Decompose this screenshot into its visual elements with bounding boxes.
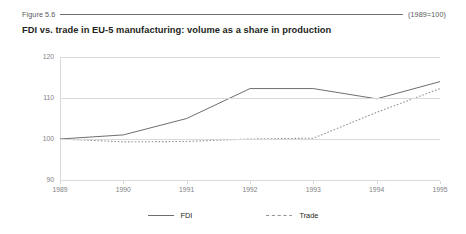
legend-item-trade: Trade: [266, 211, 318, 220]
x-axis-label: 1992: [230, 186, 270, 193]
x-tick: [440, 181, 441, 184]
x-tick: [250, 181, 251, 184]
legend-swatch-dashed-icon: [266, 212, 292, 219]
legend-label-fdi: FDI: [181, 211, 193, 220]
gridline-y: [60, 57, 440, 58]
y-axis-label: 120: [28, 54, 54, 61]
legend-label-trade: Trade: [299, 211, 318, 220]
y-tick: 120: [24, 57, 54, 58]
x-tick: [377, 181, 378, 184]
y-tick: 90: [24, 180, 54, 181]
legend-swatch-solid-icon: [148, 212, 174, 219]
x-axis-label: 1989: [40, 186, 80, 193]
series-line-fdi: [60, 82, 440, 139]
chart-legend: FDI Trade: [0, 211, 466, 220]
chart-series-layer: [0, 0, 466, 200]
gridline-y: [60, 98, 440, 99]
figure-container: Figure 5.6 (1989=100) FDI vs. trade in E…: [0, 0, 466, 234]
x-axis-label: 1991: [167, 186, 207, 193]
x-tick: [123, 181, 124, 184]
legend-item-fdi: FDI: [148, 211, 193, 220]
gridline-y: [60, 139, 440, 140]
x-tick: [187, 181, 188, 184]
y-axis-label: 110: [28, 95, 54, 102]
x-axis-label: 1995: [420, 186, 460, 193]
x-axis-label: 1994: [357, 186, 397, 193]
series-line-trade: [60, 89, 440, 142]
x-tick: [313, 181, 314, 184]
y-axis-label: 90: [28, 177, 54, 184]
y-axis-label: 100: [28, 136, 54, 143]
x-tick: [60, 181, 61, 184]
y-tick: 100: [24, 139, 54, 140]
y-tick: 110: [24, 98, 54, 99]
x-axis-label: 1990: [103, 186, 143, 193]
chart-plot-area: 901001101201989199019911992199319941995: [0, 0, 466, 200]
x-axis-label: 1993: [293, 186, 333, 193]
